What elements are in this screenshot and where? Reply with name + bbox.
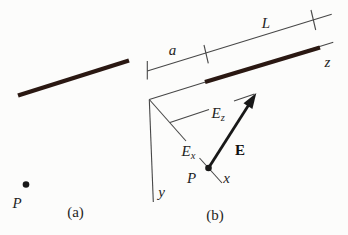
dim-label-L: L <box>261 15 270 31</box>
panel-b-caption: (b) <box>206 207 224 224</box>
panel-a-caption: (a) <box>67 204 84 221</box>
x-axis-label: x <box>222 170 230 186</box>
ex-component-label: Ex <box>181 143 196 161</box>
e-vector-label: E <box>235 142 245 158</box>
x-axis-line-upper <box>149 100 186 142</box>
dim-label-a: a <box>169 42 177 58</box>
charged-rod-b <box>205 48 320 83</box>
x-axis-line-lower <box>200 158 223 183</box>
ez-component-label: Ez <box>211 105 225 123</box>
ez-component-line-left <box>170 109 209 122</box>
y-axis-line <box>149 100 153 203</box>
z-axis-label: z <box>324 54 331 70</box>
point-p-dot-a <box>23 181 30 188</box>
figure-canvas: P (a) a L z y x Ez Ex E P (b) <box>0 0 348 235</box>
point-p-label-b: P <box>186 170 196 186</box>
point-p-dot-b <box>205 165 212 172</box>
y-axis-label: y <box>156 184 165 200</box>
dimension-tick-middle <box>204 45 208 63</box>
physics-figure: P (a) a L z y x Ez Ex E P (b) <box>0 0 348 235</box>
point-p-label-a: P <box>11 195 21 211</box>
charged-rod-a <box>18 61 129 96</box>
